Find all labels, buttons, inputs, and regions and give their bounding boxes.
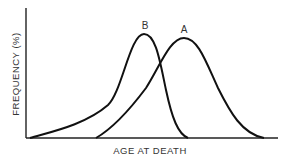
age-at-death-chart: B A AGE AT DEATH FREQUENCY (%) (0, 0, 285, 161)
curve-b (30, 34, 188, 138)
x-axis-label: AGE AT DEATH (113, 145, 187, 156)
chart-svg: B A AGE AT DEATH FREQUENCY (%) (0, 0, 285, 161)
curve-a (96, 38, 264, 138)
y-axis-label: FREQUENCY (%) (10, 32, 21, 115)
curve-a-label: A (181, 24, 188, 35)
curve-b-label: B (142, 20, 149, 31)
